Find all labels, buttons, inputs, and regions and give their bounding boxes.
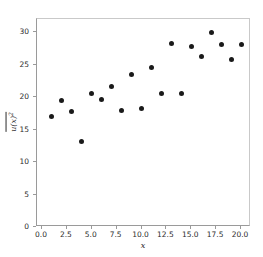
y-axis-label-exponent: 2: [7, 112, 14, 116]
y-tick-mark: [33, 226, 36, 227]
x-tick-mark: [240, 226, 241, 229]
data-point: [229, 57, 234, 62]
y-tick-label: 30: [19, 27, 29, 36]
y-tick-label: 5: [24, 189, 29, 198]
y-tick-mark: [33, 96, 36, 97]
y-tick-label: 10: [19, 157, 29, 166]
y-tick-mark: [33, 31, 36, 32]
x-axis-label: x: [141, 241, 146, 250]
data-point: [79, 139, 84, 144]
data-point: [49, 114, 54, 119]
x-tick-mark: [215, 226, 216, 229]
x-tick-mark: [165, 226, 166, 229]
data-point: [89, 91, 94, 96]
data-point: [59, 98, 64, 103]
y-tick-mark: [33, 161, 36, 162]
data-point: [219, 42, 224, 47]
plot-data-area: [37, 19, 249, 225]
x-tick-mark: [66, 226, 67, 229]
data-point: [189, 44, 194, 49]
data-point: [159, 91, 164, 96]
data-point: [69, 109, 74, 114]
plot-axes-frame: [36, 18, 250, 226]
scatter-plot-figure: 0.02.55.07.510.012.515.017.520.0 0510152…: [0, 0, 263, 257]
x-tick-label: 0.0: [35, 230, 47, 239]
y-axis-label-base: u(x): [9, 116, 18, 132]
data-point: [209, 30, 214, 35]
y-tick-mark: [33, 64, 36, 65]
data-point: [149, 65, 154, 70]
x-tick-mark: [141, 226, 142, 229]
y-tick-mark: [33, 194, 36, 195]
y-axis-label: u(x)2: [6, 112, 19, 132]
data-point: [199, 54, 204, 59]
x-tick-mark: [91, 226, 92, 229]
x-tick-label: 7.5: [110, 230, 122, 239]
x-tick-label: 12.5: [157, 230, 174, 239]
x-tick-mark: [190, 226, 191, 229]
y-tick-label: 0: [24, 222, 29, 231]
x-tick-mark: [41, 226, 42, 229]
x-tick-mark: [116, 226, 117, 229]
data-point: [169, 41, 174, 46]
y-tick-label: 15: [19, 124, 29, 133]
data-point: [139, 106, 144, 111]
x-tick-label: 2.5: [60, 230, 72, 239]
data-point: [129, 72, 134, 77]
x-tick-label: 5.0: [85, 230, 97, 239]
data-point: [109, 84, 114, 89]
x-tick-label: 10.0: [132, 230, 149, 239]
x-tick-label: 15.0: [182, 230, 199, 239]
data-point: [119, 108, 124, 113]
data-point: [239, 42, 244, 47]
data-point: [99, 97, 104, 102]
y-tick-mark: [33, 129, 36, 130]
x-tick-label: 17.5: [207, 230, 224, 239]
y-tick-label: 25: [19, 59, 29, 68]
data-point: [179, 91, 184, 96]
y-tick-label: 20: [19, 92, 29, 101]
x-tick-label: 20.0: [232, 230, 249, 239]
